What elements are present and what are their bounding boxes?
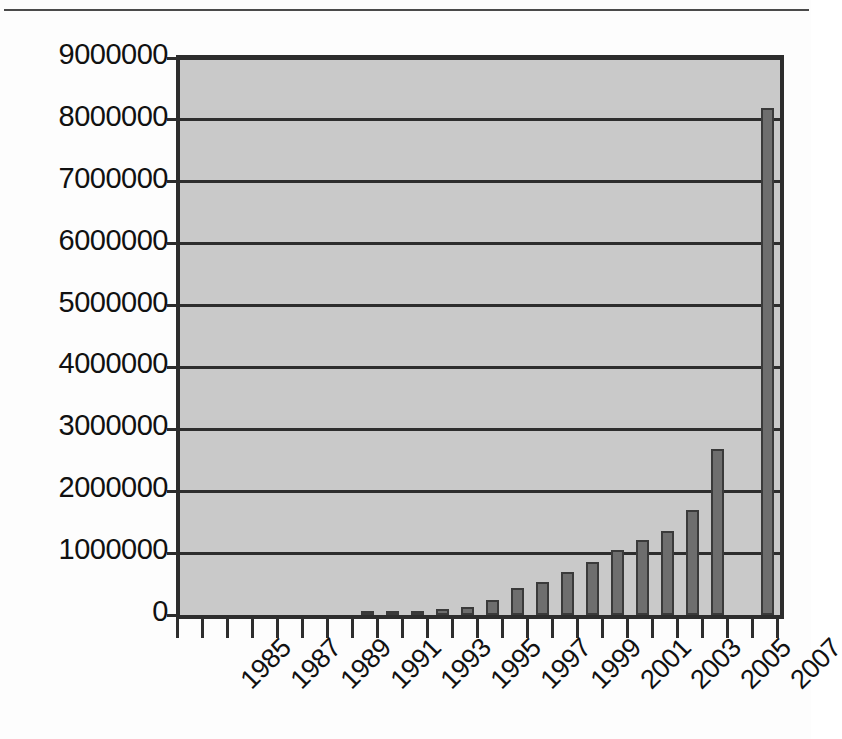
bar xyxy=(611,550,624,615)
x-axis-tick-label: 2007 xyxy=(786,634,842,694)
bar xyxy=(411,611,424,615)
y-axis-tick-mark xyxy=(167,490,180,493)
bar xyxy=(461,607,474,615)
gridline xyxy=(180,490,780,493)
bar xyxy=(511,588,524,615)
bar xyxy=(486,600,499,615)
y-axis-tick-mark xyxy=(167,428,180,431)
y-axis-tick-label: 7000000 xyxy=(0,164,168,193)
y-axis-tick-mark xyxy=(167,304,180,307)
x-axis-tick-label: 1999 xyxy=(586,634,646,694)
gridline xyxy=(180,366,780,369)
x-axis-tick-label: 1989 xyxy=(336,634,396,694)
x-axis-tick-label: 2005 xyxy=(736,634,796,694)
y-axis-tick-label: 3000000 xyxy=(0,411,168,440)
y-axis-tick-label: 6000000 xyxy=(0,226,168,255)
x-axis-tick-label: 1997 xyxy=(536,634,596,694)
x-axis-tick-label: 2003 xyxy=(686,634,746,694)
y-axis-tick-mark xyxy=(167,366,180,369)
y-axis-tick-mark xyxy=(167,57,180,60)
x-axis-tick-label: 1993 xyxy=(436,634,496,694)
bar xyxy=(386,611,399,615)
x-axis-tick-label: 1991 xyxy=(386,634,446,694)
bar xyxy=(586,562,599,615)
x-axis-labels: 1985198719891991199319951997199920012003… xyxy=(176,616,780,736)
y-axis-tick-label: 0 xyxy=(0,597,168,626)
bar xyxy=(711,449,724,615)
y-axis-tick-label: 1000000 xyxy=(0,535,168,564)
y-axis-labels: 0100000020000003000000400000050000006000… xyxy=(0,0,168,739)
bar xyxy=(686,510,699,615)
gridline xyxy=(180,428,780,431)
bar xyxy=(661,531,674,615)
y-axis-tick-mark xyxy=(167,180,180,183)
gridline xyxy=(180,242,780,245)
x-axis-tick-label: 1995 xyxy=(486,634,546,694)
gridline xyxy=(180,304,780,307)
y-axis-tick-mark xyxy=(167,118,180,121)
y-axis-tick-label: 8000000 xyxy=(0,102,168,131)
bar xyxy=(436,609,449,615)
plot-inner xyxy=(180,58,780,615)
y-axis-tick-label: 9000000 xyxy=(0,40,168,69)
plot-area xyxy=(176,55,784,619)
y-axis-tick-label: 5000000 xyxy=(0,288,168,317)
x-axis-tick-label: 1985 xyxy=(236,634,296,694)
y-axis-tick-label: 2000000 xyxy=(0,473,168,502)
y-axis-tick-mark xyxy=(167,242,180,245)
bar xyxy=(761,108,774,615)
bar xyxy=(636,540,649,616)
x-axis-tick-label: 2001 xyxy=(636,634,696,694)
bar xyxy=(561,572,574,615)
y-axis-tick-label: 4000000 xyxy=(0,349,168,378)
bar xyxy=(361,611,374,615)
y-axis-tick-mark xyxy=(167,552,180,555)
x-axis-tick-label: 1987 xyxy=(286,634,346,694)
gridline xyxy=(180,118,780,121)
bar xyxy=(536,582,549,615)
gridline xyxy=(180,180,780,183)
gridline xyxy=(180,57,780,60)
